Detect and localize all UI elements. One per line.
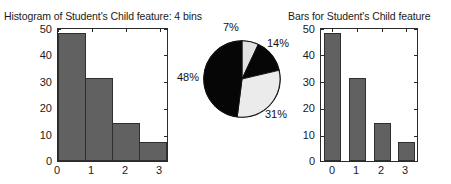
bars-ytickmark-50	[321, 29, 324, 30]
histogram-xtick-2: 2	[116, 165, 134, 176]
bars-bar-1	[349, 78, 366, 161]
pie-chart-svg	[203, 40, 281, 118]
bars-xtick-0: 0	[323, 165, 341, 176]
bars-ytick-30: 30	[282, 77, 315, 88]
histogram-ytickmark-right-30	[164, 82, 167, 83]
pie-slice-48	[204, 41, 242, 117]
bars-bar-0	[324, 33, 341, 161]
bars-title: Bars for Student's Child feature	[288, 10, 430, 22]
histogram-ytickmark-right-20	[164, 109, 167, 110]
histogram-bar-1	[85, 78, 113, 161]
histogram-bar-2	[112, 123, 140, 161]
bars-ytick-20: 20	[282, 103, 315, 114]
histogram-ytick-20: 20	[18, 103, 52, 114]
bars-ytickmark-right-50	[414, 29, 417, 30]
histogram-xtickmark-top-1	[92, 29, 93, 32]
bars-figure: Bars for Student's Child feature 50 40 3…	[288, 0, 451, 184]
pie-label-7: 7%	[223, 22, 239, 33]
histogram-ytick-10: 10	[18, 130, 52, 141]
bars-plot-area	[320, 28, 418, 162]
bars-xtickmark-top-0	[332, 29, 333, 32]
bars-ytick-0: 0	[282, 156, 315, 167]
histogram-ytickmark-right-40	[164, 55, 167, 56]
bars-xtickmark-top-3	[406, 29, 407, 32]
bars-ytickmark-right-20	[414, 109, 417, 110]
histogram-ytick-0: 0	[18, 156, 52, 167]
histogram-ytick-30: 30	[18, 77, 52, 88]
bars-xtickmark-top-1	[357, 29, 358, 32]
histogram-ytick-50: 50	[18, 24, 52, 35]
bars-xtick-1: 1	[347, 165, 365, 176]
bars-xtick-3: 3	[396, 165, 414, 176]
bars-bar-2	[374, 123, 391, 161]
histogram-ytickmark-right-10	[164, 136, 167, 137]
histogram-bar-0	[58, 33, 86, 161]
pie-label-48: 48%	[177, 72, 199, 83]
bars-ytick-40: 40	[282, 50, 315, 61]
bars-xtickmark-top-2	[382, 29, 383, 32]
bars-xtick-2: 2	[372, 165, 390, 176]
bars-ytickmark-right-10	[414, 136, 417, 137]
histogram-xtick-3: 3	[150, 165, 168, 176]
histogram-ytickmark-right-50	[164, 29, 167, 30]
bars-ytick-50: 50	[282, 24, 315, 35]
pie-chart-figure: 48% 7% 14% 31%	[170, 20, 295, 140]
histogram-xtickmark-top-3	[160, 29, 161, 32]
histogram-bar-3	[139, 142, 167, 161]
histogram-xtick-0: 0	[48, 165, 66, 176]
histogram-ytick-40: 40	[18, 50, 52, 61]
histogram-xtick-1: 1	[82, 165, 100, 176]
histogram-xtickmark-top-2	[126, 29, 127, 32]
bars-bar-3	[398, 142, 415, 161]
bars-ytickmark-right-30	[414, 82, 417, 83]
bars-ytick-10: 10	[282, 130, 315, 141]
histogram-plot-area	[57, 28, 168, 162]
histogram-xtickmark-top-0	[58, 29, 59, 32]
bars-ytickmark-right-40	[414, 55, 417, 56]
